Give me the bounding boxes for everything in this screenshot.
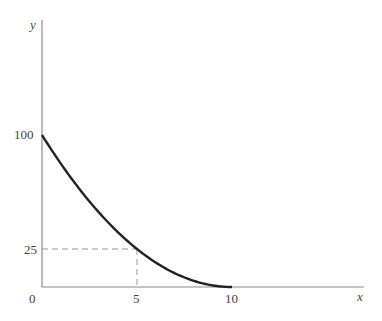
x-axis-label: x [357, 290, 363, 303]
origin-label: 0 [29, 292, 36, 305]
x-tick-5: 5 [133, 292, 140, 305]
y-tick-25: 25 [24, 243, 37, 256]
x-tick-10: 10 [225, 292, 238, 305]
y-axis-label: y [30, 18, 36, 31]
chart-canvas [0, 0, 382, 321]
y-tick-100: 100 [14, 128, 34, 141]
